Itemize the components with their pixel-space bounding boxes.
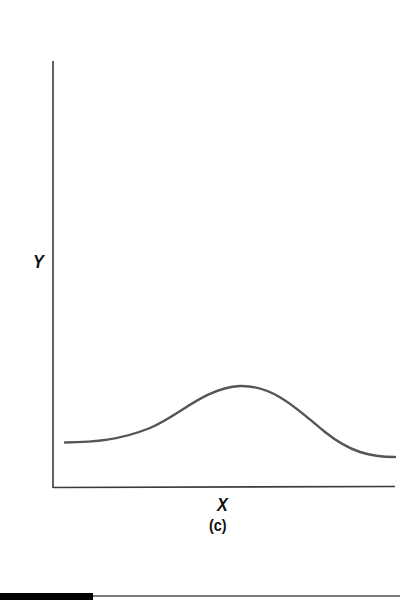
footer-rule-thin xyxy=(93,595,400,597)
footer-rule-thick xyxy=(0,593,93,600)
bell-curve xyxy=(65,386,395,457)
x-axis xyxy=(53,487,395,488)
x-axis-label: X xyxy=(217,495,228,514)
diagram-figure xyxy=(0,0,415,600)
y-axis-label: Y xyxy=(33,252,44,271)
panel-label: (c) xyxy=(209,517,227,534)
